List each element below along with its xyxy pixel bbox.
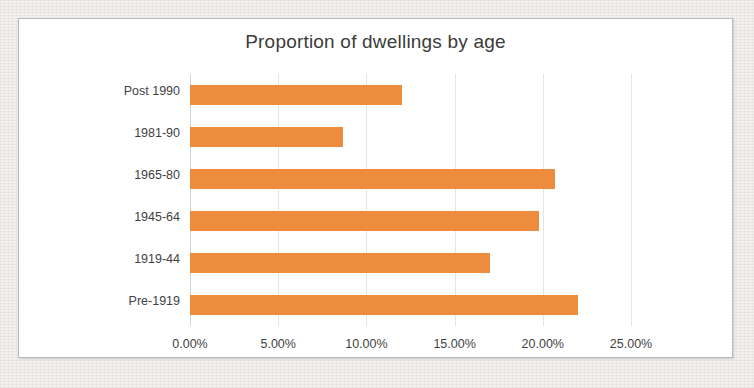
x-tick-label: 10.00% (345, 337, 387, 351)
bar-series: Post 19901981-901965-801945-641919-44Pre… (190, 74, 631, 326)
category-label: 1981-90 (134, 126, 180, 140)
x-axis: 0.00%5.00%10.00%15.00%20.00%25.00% (190, 337, 631, 357)
bar (190, 295, 578, 315)
bar (190, 253, 490, 273)
chart-frame: Proportion of dwellings by age Post 1990… (18, 18, 733, 358)
category-label: 1965-80 (134, 168, 180, 182)
category-label: Pre-1919 (129, 294, 180, 308)
category-label: 1919-44 (134, 252, 180, 266)
category-label: 1945-64 (134, 210, 180, 224)
chart-title: Proportion of dwellings by age (19, 31, 732, 53)
x-tick-label: 15.00% (433, 337, 475, 351)
bar-row: 1965-80 (190, 158, 631, 200)
x-tick-label: 0.00% (172, 337, 207, 351)
x-tick-label: 25.00% (610, 337, 652, 351)
bar-row: 1919-44 (190, 242, 631, 284)
gridline-2500 (631, 74, 632, 326)
category-label: Post 1990 (124, 84, 180, 98)
bar-row: 1945-64 (190, 200, 631, 242)
bar-row: Pre-1919 (190, 284, 631, 326)
bar-row: Post 1990 (190, 74, 631, 116)
bar (190, 169, 555, 189)
bar (190, 211, 539, 231)
bar (190, 85, 402, 105)
x-tick-label: 20.00% (522, 337, 564, 351)
x-tick-label: 5.00% (260, 337, 295, 351)
bar-row: 1981-90 (190, 116, 631, 158)
plot-area: Post 19901981-901965-801945-641919-44Pre… (190, 74, 631, 326)
bar (190, 127, 343, 147)
